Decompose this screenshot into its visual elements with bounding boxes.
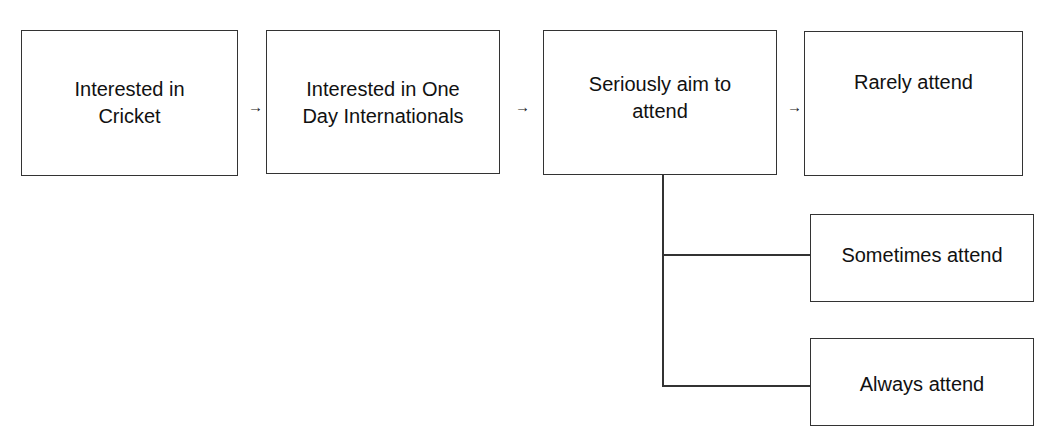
node-always-attend: Always attend: [810, 338, 1034, 426]
node-label: Rarely attend: [805, 69, 1022, 96]
node-label: Sometimes attend: [811, 242, 1033, 269]
arrow-icon: →: [787, 99, 802, 114]
node-label: Interested in One Day Internationals: [267, 76, 499, 130]
arrow-icon: →: [515, 99, 530, 114]
connector-to-sometimes: [662, 254, 811, 256]
node-interested-in-odi: Interested in One Day Internationals: [266, 30, 500, 174]
connector-to-always: [662, 385, 811, 387]
connector-vertical: [662, 175, 664, 386]
node-label: Always attend: [811, 371, 1033, 398]
node-seriously-aim-to-attend: Seriously aim to attend: [543, 30, 777, 175]
node-label: Seriously aim to attend: [544, 71, 776, 125]
node-label: Interested in Cricket: [22, 76, 237, 130]
node-sometimes-attend: Sometimes attend: [810, 214, 1034, 302]
node-rarely-attend: Rarely attend: [804, 31, 1023, 176]
node-interested-in-cricket: Interested in Cricket: [21, 30, 238, 176]
arrow-icon: →: [248, 99, 263, 114]
